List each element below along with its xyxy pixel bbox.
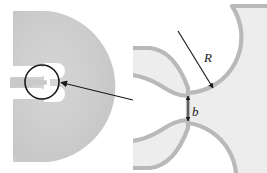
figure-root: R b xyxy=(0,0,267,173)
gap-label: b xyxy=(192,104,199,119)
slot-lower xyxy=(10,88,46,99)
figure-canvas: R b xyxy=(0,0,267,173)
radius-label: R xyxy=(203,50,212,65)
detail-panel xyxy=(120,0,267,173)
